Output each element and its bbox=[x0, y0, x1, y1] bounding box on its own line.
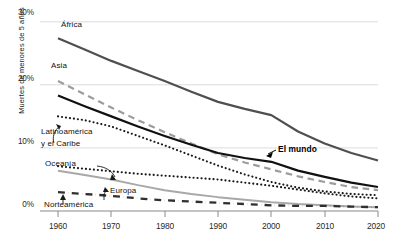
y-tick-label-0: 0% bbox=[4, 200, 34, 209]
y-axis-title: Muertes de menores de 5 años bbox=[17, 0, 26, 136]
x-tick-label-1970: 1970 bbox=[91, 221, 131, 231]
y-tick-label-30: 30% bbox=[4, 8, 34, 17]
series-line-asia bbox=[58, 81, 378, 190]
x-tick-label-1960: 1960 bbox=[38, 221, 78, 231]
chart-container: Muertes de menores de 5 años 30% 20% 10%… bbox=[0, 0, 397, 240]
series-line-frica bbox=[58, 38, 378, 160]
series-label-norteamerica: Norteamérica bbox=[44, 200, 93, 209]
x-tick-label-2020: 2020 bbox=[356, 221, 396, 231]
y-tick-label-20: 20% bbox=[4, 74, 34, 83]
series-label-latam-line1: Latinoamérica bbox=[41, 127, 93, 136]
oceania-arrowhead bbox=[110, 174, 116, 180]
axes bbox=[40, 211, 378, 217]
x-tick-label-2000: 2000 bbox=[251, 221, 291, 231]
y-tick-label-10: 10% bbox=[4, 137, 34, 146]
series-lines bbox=[58, 38, 378, 207]
series-label-africa: África bbox=[61, 20, 82, 29]
x-tick-label-2010: 2010 bbox=[305, 221, 345, 231]
series-label-mundo: El mundo bbox=[278, 144, 317, 154]
series-label-oceania: Oceanía bbox=[45, 159, 76, 168]
series-line-el-mundo bbox=[58, 96, 378, 187]
x-tick-label-1980: 1980 bbox=[145, 221, 185, 231]
europa-arrowhead bbox=[103, 187, 109, 192]
series-label-latam-line2: y el Caribe bbox=[41, 139, 80, 148]
series-label-europa: Europa bbox=[110, 186, 136, 195]
series-label-asia: Asia bbox=[51, 61, 67, 70]
x-tick-label-1990: 1990 bbox=[198, 221, 238, 231]
